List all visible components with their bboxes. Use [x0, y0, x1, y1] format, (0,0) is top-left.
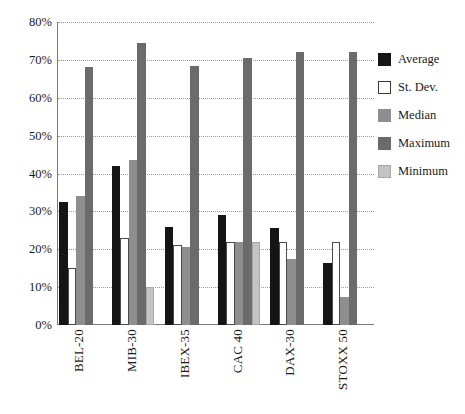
- bar-maximum: [296, 52, 305, 325]
- bar-median: [76, 196, 85, 325]
- x-axis-tick-label: IBEX-35: [177, 329, 193, 378]
- bar-average: [218, 215, 227, 325]
- x-axis-tick-label: STOXX 50: [335, 329, 351, 390]
- legend: AverageSt. Dev.MedianMaximumMinimum: [378, 46, 464, 186]
- bar-median: [129, 160, 138, 325]
- bar-stdev: [279, 242, 288, 325]
- bar-average: [165, 227, 174, 325]
- bar-group: [163, 22, 216, 325]
- y-axis: 0%10%20%30%40%50%60%70%80%: [0, 22, 52, 325]
- x-axis-tick-label: BEL-20: [71, 329, 87, 372]
- legend-item-label: St. Dev.: [398, 80, 438, 95]
- bar-group: [110, 22, 163, 325]
- bar-maximum: [243, 58, 252, 325]
- x-axis-tick-label: CAC 40: [230, 329, 246, 373]
- bar-median: [340, 297, 349, 325]
- legend-item-label: Average: [398, 52, 439, 67]
- y-axis-tick-label: 70%: [6, 54, 52, 67]
- legend-swatch-maximum-icon: [378, 137, 391, 150]
- bar-average: [59, 202, 68, 325]
- bar-maximum: [85, 67, 94, 325]
- legend-item[interactable]: Average: [378, 46, 464, 72]
- y-axis-tick-label: 0%: [6, 319, 52, 332]
- bar-group: [268, 22, 321, 325]
- legend-swatch-stdev-icon: [378, 81, 391, 94]
- bar-groups: [57, 22, 374, 325]
- bar-median: [182, 247, 191, 325]
- legend-swatch-average-icon: [378, 53, 391, 66]
- bar-maximum: [349, 52, 358, 325]
- bar-average: [323, 263, 332, 325]
- y-axis-tick-label: 30%: [6, 205, 52, 218]
- y-axis-tick-label: 40%: [6, 167, 52, 180]
- bar-group: [216, 22, 269, 325]
- bar-stdev: [173, 245, 182, 325]
- legend-swatch-minimum-icon: [378, 165, 391, 178]
- bar-group: [321, 22, 374, 325]
- bar-minimum: [146, 287, 155, 325]
- legend-item[interactable]: Minimum: [378, 158, 464, 184]
- y-axis-tick-label: 60%: [6, 92, 52, 105]
- legend-item-label: Maximum: [398, 136, 450, 151]
- bar-median: [287, 259, 296, 325]
- bar-group: [57, 22, 110, 325]
- bar-maximum: [137, 43, 146, 325]
- bar-stdev: [226, 242, 235, 325]
- x-axis-tick-label: DAX-30: [282, 329, 298, 376]
- bar-average: [270, 228, 279, 325]
- legend-item[interactable]: St. Dev.: [378, 74, 464, 100]
- legend-item[interactable]: Maximum: [378, 130, 464, 156]
- bar-stdev: [332, 242, 341, 325]
- bar-median: [235, 242, 244, 325]
- legend-swatch-median-icon: [378, 109, 391, 122]
- y-axis-tick-label: 20%: [6, 243, 52, 256]
- legend-item-label: Minimum: [398, 164, 448, 179]
- bar-maximum: [190, 66, 199, 325]
- legend-item-label: Median: [398, 108, 436, 123]
- x-axis-tick-label: MIB-30: [124, 329, 140, 372]
- x-axis: BEL-20MIB-30IBEX-35CAC 40DAX-30STOXX 50: [57, 325, 374, 414]
- bar-average: [112, 166, 121, 325]
- y-axis-tick-label: 10%: [6, 281, 52, 294]
- legend-item[interactable]: Median: [378, 102, 464, 128]
- bar-stdev: [68, 268, 77, 325]
- bar-minimum: [252, 242, 261, 325]
- y-axis-tick-label: 80%: [6, 16, 52, 29]
- bar-stdev: [120, 238, 129, 325]
- bar-chart: 0%10%20%30%40%50%60%70%80% BEL-20MIB-30I…: [0, 0, 465, 414]
- y-axis-tick-label: 50%: [6, 129, 52, 142]
